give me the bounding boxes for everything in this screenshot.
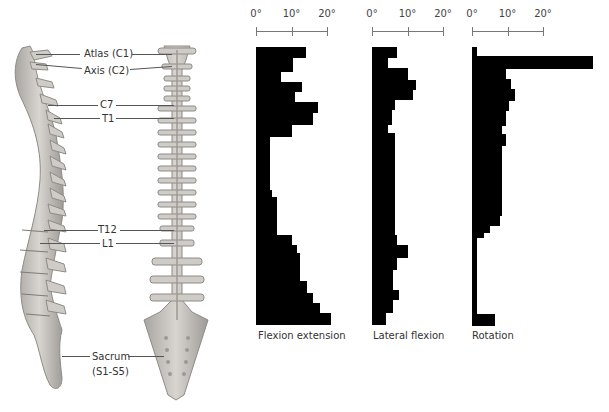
leader-line-sacrum bbox=[62, 356, 90, 357]
label-c7: C7 bbox=[100, 99, 113, 110]
tick-0 bbox=[472, 27, 473, 36]
bar-segment bbox=[256, 82, 302, 92]
tick-label-10: 10° bbox=[399, 8, 417, 19]
bar-segment bbox=[372, 125, 388, 133]
bar-segment bbox=[472, 111, 506, 126]
bar-segment bbox=[472, 134, 506, 146]
leader-line-l1-right bbox=[116, 243, 174, 244]
tick-label-0: 0° bbox=[366, 8, 377, 19]
bar-segment bbox=[472, 47, 477, 56]
bar-segment bbox=[472, 216, 500, 226]
leader-line-atlas bbox=[36, 54, 80, 55]
bar-segment bbox=[472, 69, 506, 79]
tick-label-20: 20° bbox=[534, 8, 552, 19]
bar-segment bbox=[256, 72, 281, 82]
bar-segment bbox=[472, 89, 515, 101]
leader-line-sacrum-right bbox=[128, 356, 164, 357]
bar-segment bbox=[372, 313, 386, 325]
bar-segment bbox=[372, 300, 393, 313]
bar-segment bbox=[372, 80, 416, 90]
bar-segment bbox=[472, 238, 477, 314]
bar-segment bbox=[372, 235, 397, 245]
bar-segment bbox=[372, 245, 408, 258]
tick-label-10: 10° bbox=[499, 8, 517, 19]
bar-segment bbox=[472, 314, 495, 326]
label-atlas-c1: Atlas (C1) bbox=[84, 48, 133, 59]
bar-segment bbox=[256, 47, 306, 58]
bar-segment bbox=[256, 235, 292, 245]
label-l1: L1 bbox=[102, 238, 114, 249]
leader-line-t1-right bbox=[116, 118, 174, 119]
bar-segment bbox=[256, 58, 293, 72]
bar-segment bbox=[372, 68, 408, 80]
tick-10 bbox=[408, 27, 409, 36]
bar-segment bbox=[372, 133, 395, 235]
label-sacrum: Sacrum bbox=[92, 351, 130, 362]
bar-segment bbox=[472, 226, 490, 233]
label-t1: T1 bbox=[102, 113, 114, 124]
tick-0 bbox=[256, 27, 257, 36]
bar-segment bbox=[256, 113, 313, 125]
bar-segment bbox=[372, 270, 393, 290]
bar-segment bbox=[256, 303, 320, 313]
leader-line-t12-right bbox=[120, 230, 174, 231]
bar-segment bbox=[256, 137, 270, 190]
bar-segment bbox=[472, 79, 511, 89]
bar-segment bbox=[472, 146, 502, 216]
leader-line-t1 bbox=[54, 118, 100, 119]
bar-segment bbox=[256, 125, 292, 137]
tick-0 bbox=[372, 27, 373, 36]
bar-segment bbox=[256, 253, 300, 281]
bar-segment bbox=[472, 101, 509, 111]
leader-line-t12 bbox=[44, 230, 98, 231]
tick-20 bbox=[443, 27, 444, 36]
tick-10 bbox=[292, 27, 293, 36]
tick-20 bbox=[543, 27, 544, 36]
leader-line-c7 bbox=[48, 105, 98, 106]
bar-segment bbox=[372, 290, 399, 300]
bar-segment bbox=[256, 102, 318, 113]
leader-line-c7-right bbox=[116, 105, 174, 106]
bar-segment bbox=[256, 92, 295, 102]
label-t12: T12 bbox=[98, 224, 117, 235]
label-sacrum-range: (S1-S5) bbox=[92, 366, 129, 377]
tick-10 bbox=[508, 27, 509, 36]
bar-segment bbox=[256, 313, 331, 325]
spine-side-view bbox=[15, 46, 66, 389]
bar-segment bbox=[256, 197, 277, 235]
bar-segment bbox=[256, 245, 297, 253]
bar-segment bbox=[372, 258, 397, 270]
tick-20 bbox=[327, 27, 328, 36]
bar-segment bbox=[372, 110, 392, 125]
tick-label-20: 20° bbox=[434, 8, 452, 19]
bar-segment bbox=[256, 281, 307, 293]
bar-segment bbox=[372, 58, 388, 68]
bar-segment bbox=[372, 90, 413, 100]
tick-label-20: 20° bbox=[318, 8, 336, 19]
chart-caption: Rotation bbox=[472, 330, 514, 341]
bar-segment bbox=[472, 126, 502, 134]
label-axis-c2: Axis (C2) bbox=[84, 65, 129, 76]
bar-segment bbox=[372, 100, 395, 110]
bar-segment bbox=[256, 190, 272, 197]
tick-label-10: 10° bbox=[283, 8, 301, 19]
spine-back-view bbox=[144, 46, 208, 400]
tick-label-0: 0° bbox=[250, 8, 261, 19]
chart-caption: Lateral flexion bbox=[373, 330, 444, 341]
chart-caption: Flexion extension bbox=[258, 330, 346, 341]
bar-segment bbox=[472, 56, 593, 69]
bar-segment bbox=[372, 47, 397, 58]
tick-label-0: 0° bbox=[466, 8, 477, 19]
bar-segment bbox=[256, 293, 313, 303]
leader-line-l1 bbox=[40, 243, 100, 244]
leader-line-atlas-right bbox=[132, 54, 172, 55]
